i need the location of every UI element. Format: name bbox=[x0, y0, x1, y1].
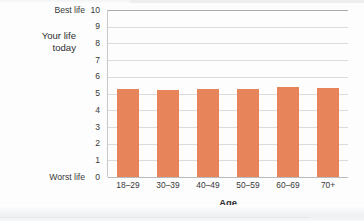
bar-slot bbox=[188, 10, 228, 177]
y-axis-tick-labels: Worst life0123456789Best life10 bbox=[0, 0, 104, 221]
plot-area bbox=[108, 10, 348, 177]
y-tick-9: 9 bbox=[0, 22, 100, 31]
y-tick-7: 7 bbox=[0, 56, 100, 65]
y-tick-label: 6 bbox=[89, 72, 100, 81]
y-tick-6: 6 bbox=[0, 72, 100, 81]
bar-slot bbox=[308, 10, 348, 177]
page-scan-band-bottom bbox=[0, 205, 364, 221]
y-tick-3: 3 bbox=[0, 123, 100, 132]
y-tick-label: 5 bbox=[89, 89, 100, 98]
y-tick-label: 0 bbox=[89, 173, 100, 182]
bar-slot bbox=[268, 10, 308, 177]
best-life-annotation: Best life bbox=[54, 5, 85, 15]
page-scan-band-top-inner bbox=[130, 0, 364, 3]
y-tick-2: 2 bbox=[0, 139, 100, 148]
y-tick-label: 10 bbox=[89, 6, 100, 15]
worst-life-annotation: Worst life bbox=[49, 172, 85, 182]
y-tick-label: 1 bbox=[89, 156, 100, 165]
bar-series bbox=[108, 10, 348, 177]
bar bbox=[157, 90, 179, 177]
y-tick-label: 3 bbox=[89, 123, 100, 132]
y-tick-label: 7 bbox=[89, 56, 100, 65]
y-tick-label: 2 bbox=[89, 139, 100, 148]
bar bbox=[317, 88, 339, 177]
bar-chart-figure: Your life today Worst life0123456789Best… bbox=[0, 0, 364, 221]
bar-slot bbox=[108, 10, 148, 177]
bar bbox=[117, 89, 139, 178]
y-tick-label: 9 bbox=[89, 22, 100, 31]
bar-slot bbox=[148, 10, 188, 177]
y-tick-5: 5 bbox=[0, 89, 100, 98]
x-axis-tick-labels: 18–2930–3940–4950–5960–6970+ bbox=[108, 181, 348, 195]
bar bbox=[277, 87, 299, 177]
gridline-0 bbox=[108, 177, 348, 178]
y-tick-0: Worst life0 bbox=[0, 173, 100, 182]
bar bbox=[197, 89, 219, 178]
y-tick-label: 8 bbox=[89, 39, 100, 48]
bar-slot bbox=[228, 10, 268, 177]
x-tick-label: 70+ bbox=[304, 181, 352, 189]
bar bbox=[237, 89, 259, 177]
y-tick-8: 8 bbox=[0, 39, 100, 48]
page-scan-band-bottom-line bbox=[0, 217, 310, 218]
y-tick-4: 4 bbox=[0, 106, 100, 115]
y-tick-1: 1 bbox=[0, 156, 100, 165]
y-tick-label: 4 bbox=[89, 106, 100, 115]
y-tick-10: Best life10 bbox=[0, 6, 100, 15]
